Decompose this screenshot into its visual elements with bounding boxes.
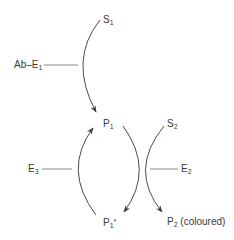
diagram-canvas: [0, 0, 234, 240]
label-e3: E3: [28, 163, 39, 178]
label-s1: S1: [103, 14, 114, 29]
label-e2: E2: [181, 163, 192, 178]
label-ab-e1: Ab–E1: [14, 59, 42, 74]
label-p1: P1: [103, 118, 114, 133]
arrow-p1-to-p1star: [123, 126, 139, 212]
arrow-s1-to-p1: [83, 20, 100, 112]
label-p1-star: P1*: [103, 216, 116, 232]
label-s2: S2: [167, 118, 178, 133]
arrow-p1star-to-p1: [78, 128, 96, 215]
label-p2-coloured: P2 (coloured): [167, 216, 225, 231]
